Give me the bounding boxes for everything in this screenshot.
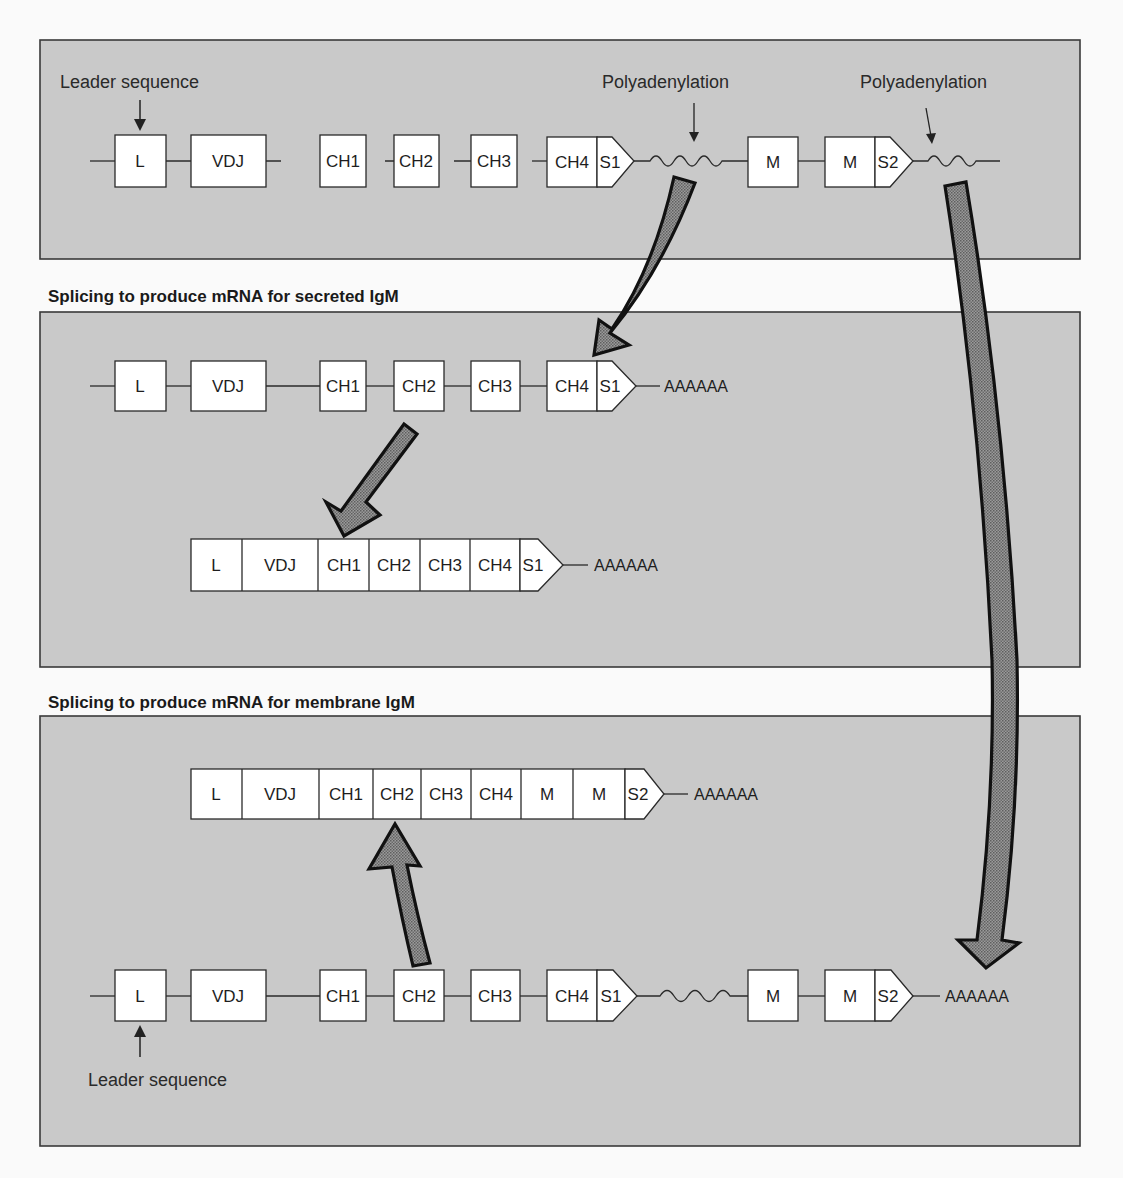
segment-CH3: CH3 bbox=[428, 556, 462, 575]
segment-VDJ: VDJ bbox=[191, 970, 266, 1021]
segment-M1: M bbox=[748, 970, 798, 1021]
svg-text:CH1: CH1 bbox=[326, 152, 360, 171]
segment-VDJ: VDJ bbox=[191, 135, 266, 187]
svg-text:CH1: CH1 bbox=[326, 987, 360, 1006]
label-leader-sequence-top: Leader sequence bbox=[60, 72, 199, 92]
segment-CH1: CH1 bbox=[320, 361, 366, 411]
svg-text:M: M bbox=[843, 153, 857, 172]
label-polyadenylation-1: Polyadenylation bbox=[602, 72, 729, 92]
svg-text:CH2: CH2 bbox=[399, 152, 433, 171]
segment-L: L bbox=[211, 556, 220, 575]
svg-text:S1: S1 bbox=[601, 987, 622, 1006]
svg-text:S1: S1 bbox=[600, 377, 621, 396]
segment-S1: S1 bbox=[523, 556, 544, 575]
svg-text:CH4: CH4 bbox=[555, 987, 589, 1006]
segment-CH2: CH2 bbox=[394, 361, 444, 411]
segment-M2: M bbox=[825, 970, 875, 1021]
segment-CH1: CH1 bbox=[320, 970, 366, 1021]
svg-text:M: M bbox=[766, 153, 780, 172]
svg-text:CH3: CH3 bbox=[478, 377, 512, 396]
segment-CH4: CH4 bbox=[547, 137, 597, 187]
segment-VDJ: VDJ bbox=[264, 785, 296, 804]
segment-CH3: CH3 bbox=[471, 361, 520, 411]
poly-a-tail: AAAAAA bbox=[664, 378, 728, 395]
svg-text:M: M bbox=[843, 987, 857, 1006]
segment-M1: M bbox=[748, 137, 798, 187]
igm-splicing-diagram: Splicing to produce mRNA for secreted Ig… bbox=[0, 0, 1123, 1178]
segment-L: L bbox=[115, 970, 166, 1021]
segment-CH2: CH2 bbox=[394, 135, 439, 187]
svg-text:CH1: CH1 bbox=[326, 377, 360, 396]
segment-CH4: CH4 bbox=[547, 361, 597, 411]
segment-CH2: CH2 bbox=[380, 785, 414, 804]
svg-text:CH3: CH3 bbox=[478, 987, 512, 1006]
svg-text:CH2: CH2 bbox=[402, 377, 436, 396]
svg-text:VDJ: VDJ bbox=[212, 377, 244, 396]
heading-secreted: Splicing to produce mRNA for secreted Ig… bbox=[48, 287, 399, 306]
svg-text:CH2: CH2 bbox=[402, 987, 436, 1006]
svg-text:CH3: CH3 bbox=[477, 152, 511, 171]
segment-CH3: CH3 bbox=[471, 970, 520, 1021]
segment-L: L bbox=[115, 135, 166, 187]
poly-a-tail: AAAAAA bbox=[594, 557, 658, 574]
svg-text:L: L bbox=[135, 987, 144, 1006]
poly-a-tail: AAAAAA bbox=[694, 786, 758, 803]
segment-CH1: CH1 bbox=[327, 556, 361, 575]
segment-CH4: CH4 bbox=[479, 785, 513, 804]
svg-text:CH4: CH4 bbox=[555, 153, 589, 172]
segment-S2: S2 bbox=[628, 785, 649, 804]
segment-CH3: CH3 bbox=[429, 785, 463, 804]
segment-M2: M bbox=[592, 785, 606, 804]
segment-M2: M bbox=[825, 137, 875, 187]
label-leader-sequence-bottom: Leader sequence bbox=[88, 1070, 227, 1090]
segment-CH3: CH3 bbox=[471, 135, 517, 187]
segment-VDJ: VDJ bbox=[191, 361, 266, 411]
svg-text:CH4: CH4 bbox=[555, 377, 589, 396]
svg-text:M: M bbox=[766, 987, 780, 1006]
segment-M1: M bbox=[540, 785, 554, 804]
svg-text:S2: S2 bbox=[878, 987, 899, 1006]
segment-L: L bbox=[211, 785, 220, 804]
svg-text:S1: S1 bbox=[600, 153, 621, 172]
svg-text:VDJ: VDJ bbox=[212, 152, 244, 171]
poly-a-tail: AAAAAA bbox=[945, 988, 1009, 1005]
segment-CH4: CH4 bbox=[547, 970, 597, 1021]
segment-CH2: CH2 bbox=[377, 556, 411, 575]
svg-text:VDJ: VDJ bbox=[212, 987, 244, 1006]
svg-text:L: L bbox=[135, 377, 144, 396]
segment-L: L bbox=[115, 361, 166, 411]
segment-CH4: CH4 bbox=[478, 556, 512, 575]
heading-membrane: Splicing to produce mRNA for membrane Ig… bbox=[48, 693, 415, 712]
svg-text:S2: S2 bbox=[878, 153, 899, 172]
segment-VDJ: VDJ bbox=[264, 556, 296, 575]
segment-CH2: CH2 bbox=[394, 970, 444, 1021]
svg-text:L: L bbox=[135, 152, 144, 171]
segment-CH1: CH1 bbox=[329, 785, 363, 804]
label-polyadenylation-2: Polyadenylation bbox=[860, 72, 987, 92]
segment-CH1: CH1 bbox=[320, 135, 366, 187]
